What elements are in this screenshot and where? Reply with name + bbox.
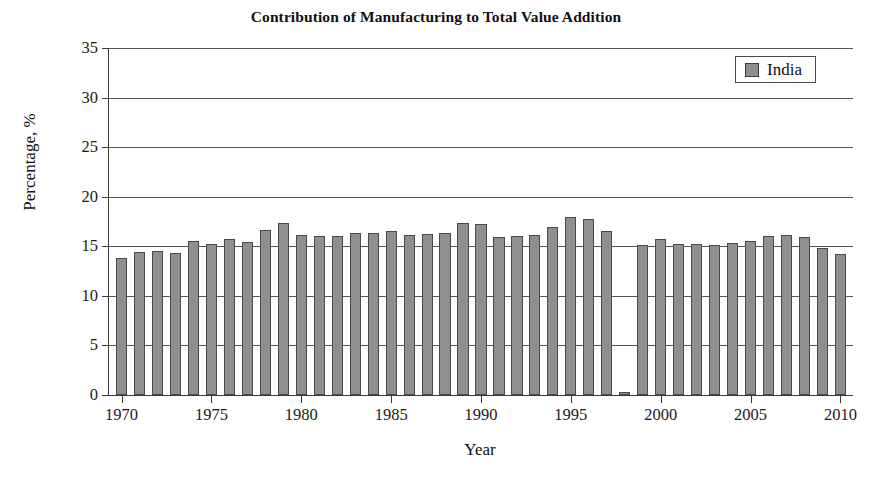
bar-1993 [529, 235, 540, 395]
bar-1973 [170, 253, 181, 395]
x-tick-1975 [211, 395, 212, 403]
chart-legend: India [735, 56, 816, 83]
y-axis-title: Percentage, % [20, 52, 40, 272]
x-tick-1985 [391, 395, 392, 403]
bar-1991 [493, 237, 504, 395]
gridline-y-35 [109, 48, 853, 49]
bar-1994 [547, 227, 558, 395]
x-tick-label-1985: 1985 [375, 405, 408, 425]
bar-1978 [260, 230, 271, 395]
bar-1987 [422, 234, 433, 395]
bar-1997 [601, 231, 612, 395]
x-tick-1980 [301, 395, 302, 403]
x-tick-label-2000: 2000 [644, 405, 677, 425]
x-tick-label-1970: 1970 [105, 405, 138, 425]
bar-1985 [386, 231, 397, 395]
bar-1975 [206, 244, 217, 395]
x-tick-1970 [122, 395, 123, 403]
y-tick-label-30: 30 [82, 88, 99, 108]
bar-1982 [332, 236, 343, 395]
bar-1999 [637, 245, 648, 395]
bar-1984 [368, 233, 379, 395]
bar-2010 [835, 254, 846, 395]
bar-1977 [242, 242, 253, 395]
gridline-y-25 [109, 147, 853, 148]
legend-label-india: India [767, 61, 802, 78]
bar-1986 [404, 235, 415, 395]
y-tick-15 [102, 246, 109, 247]
bar-1992 [511, 236, 522, 395]
bar-2007 [781, 235, 792, 395]
chart-figure: Contribution of Manufacturing to Total V… [0, 0, 872, 478]
legend-swatch-india [745, 63, 759, 77]
y-tick-5 [102, 345, 109, 346]
bar-1989 [457, 223, 468, 395]
x-tick-label-1990: 1990 [465, 405, 498, 425]
x-tick-1990 [481, 395, 482, 403]
y-tick-10 [102, 296, 109, 297]
gridline-y-20 [109, 197, 853, 198]
y-tick-20 [102, 197, 109, 198]
bar-2009 [817, 248, 828, 395]
bar-2006 [763, 236, 774, 395]
bar-1981 [314, 236, 325, 395]
bar-2001 [673, 244, 684, 395]
y-tick-35 [102, 48, 109, 49]
x-tick-2005 [751, 395, 752, 403]
x-axis-title: Year [108, 440, 852, 460]
x-tick-label-1995: 1995 [554, 405, 587, 425]
y-tick-25 [102, 147, 109, 148]
x-tick-label-1980: 1980 [285, 405, 318, 425]
bar-1976 [224, 239, 235, 395]
bar-1974 [188, 241, 199, 395]
bar-1983 [350, 233, 361, 395]
y-tick-label-0: 0 [90, 385, 98, 405]
bar-1970 [116, 258, 127, 395]
bar-1988 [439, 233, 450, 395]
x-tick-label-2005: 2005 [734, 405, 767, 425]
bar-1979 [278, 223, 289, 395]
x-tick-label-2010: 2010 [824, 405, 857, 425]
x-tick-2000 [661, 395, 662, 403]
x-tick-label-1975: 1975 [195, 405, 228, 425]
y-tick-30 [102, 98, 109, 99]
bar-1980 [296, 235, 307, 395]
y-tick-label-15: 15 [82, 236, 99, 256]
y-tick-0 [102, 395, 109, 396]
bar-1998 [619, 392, 630, 395]
bar-1971 [134, 252, 145, 395]
bar-1972 [152, 251, 163, 395]
x-tick-2010 [840, 395, 841, 403]
bar-2000 [655, 239, 666, 395]
bar-2004 [727, 243, 738, 395]
bar-2002 [691, 244, 702, 395]
bar-2005 [745, 241, 756, 395]
y-tick-label-5: 5 [90, 335, 98, 355]
chart-title: Contribution of Manufacturing to Total V… [0, 8, 872, 26]
y-tick-label-20: 20 [82, 187, 99, 207]
bar-1990 [475, 224, 486, 395]
y-tick-label-35: 35 [82, 38, 99, 58]
bar-1995 [565, 217, 576, 395]
bar-1996 [583, 219, 594, 395]
bar-2003 [709, 245, 720, 395]
plot-area: 0510152025303519701975198019851990199520… [108, 48, 853, 396]
y-tick-label-25: 25 [82, 137, 99, 157]
bar-2008 [799, 237, 810, 395]
y-tick-label-10: 10 [82, 286, 99, 306]
x-tick-1995 [571, 395, 572, 403]
gridline-y-30 [109, 98, 853, 99]
